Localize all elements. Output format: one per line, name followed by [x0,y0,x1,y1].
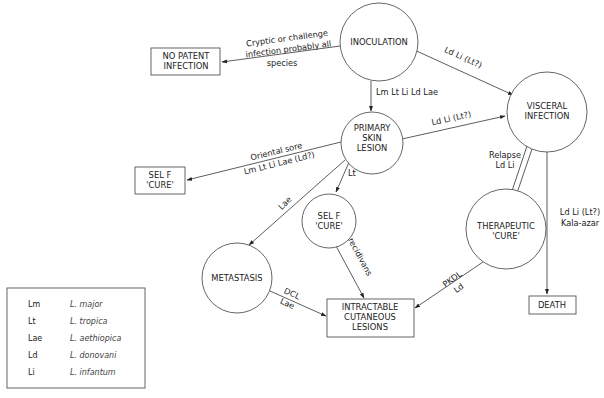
node-label: THERAPEUTIC [476,221,535,231]
node-label: SEL F [149,170,172,180]
node-label: SEL F [318,211,341,221]
node-label: 'CURE' [492,231,520,241]
node-label: 'CURE' [315,221,343,231]
edge-label-inoculation-primary: Lm Lt Li Ld Lae [376,87,438,97]
node-label: LESIONS [352,322,388,332]
legend-species-name: L. donovani [70,351,117,360]
node-label: NO PATENT [163,51,211,61]
node-label: INTRACTABLE [342,302,399,312]
node-label: VISCERAL [527,101,568,111]
edge-label-relapse: Relapse [489,150,521,160]
legend-species-name: L. major [70,300,103,309]
node-label: 'CURE' [146,180,174,190]
node-label: INFECTION [524,111,569,121]
node-therapeutic-cure: THERAPEUTIC 'CURE' [466,189,546,269]
legend-species-name: L. aethiopica [70,334,121,343]
node-label: PRIMARY [354,123,392,133]
node-label: LESION [357,143,388,153]
node-label: INOCULATION [350,37,408,47]
node-death: DEATH [529,296,576,314]
legend-abbr: Lm [28,300,40,309]
edge-label-pkdl: PKDL Ld [441,268,471,298]
legend-species-name: L. infantum [70,368,116,377]
edge-label-kala-azar: Kala-azar [561,218,600,228]
node-metastasis: METASTASIS [202,243,272,313]
edge-label-cryptic-infection: Cryptic or challenge infection probably … [244,27,332,59]
edge-label-dcl: DCL Lae [278,285,302,311]
edge-label-line: species [267,58,298,68]
legend-abbr: Li [28,368,35,377]
node-label: CUTANEOUS [344,312,396,322]
node-label: INFECTION [163,61,208,71]
species-legend: Lm L. major Lt L. tropica Lae L. aethiop… [7,288,145,388]
legend-abbr: Lt [28,317,36,326]
node-inoculation: INOCULATION [340,3,418,81]
legend-species-name: L. tropica [70,317,108,326]
edge-label-inoculation-visceral: Ld Li (Lt?) [443,44,484,70]
legend-abbr: Ld [28,351,38,360]
edge-label-oriental-sore: Oriental sore Lm Lt Li Lae (Ld?) [240,138,316,177]
node-visceral-infection: VISCERAL INFECTION [507,72,587,152]
edge-label-kala-azar-species: Ld Li (Lt?) [560,207,600,217]
node-self-cure-circle: SEL F 'CURE' [302,194,356,248]
edge-label-primary-metastasis: Lae [276,194,293,211]
node-label: METASTASIS [211,273,262,283]
legend-abbr: Lae [28,334,42,343]
leishmaniasis-outcome-diagram: Cryptic or challenge infection probably … [0,0,604,398]
edge-label-relapse-species: Ld Li [495,160,514,170]
node-intractable-cutaneous-lesions: INTRACTABLE CUTANEOUS LESIONS [327,299,414,337]
node-no-patent-infection: NO PATENT INFECTION [151,48,220,75]
node-label: DEATH [538,300,566,310]
node-primary-skin-lesion: PRIMARY SKIN LESION [341,112,403,174]
node-label: SKIN [362,133,382,143]
node-self-cure-box: SEL F 'CURE' [135,167,185,194]
